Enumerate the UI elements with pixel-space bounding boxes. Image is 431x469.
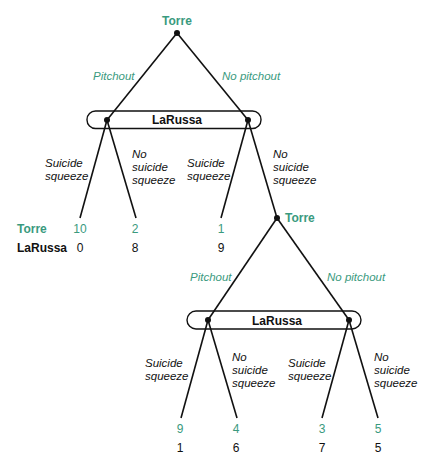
payoff-larussa-5: 6: [233, 441, 240, 455]
i1l-action-no-suicide: No suicide squeeze: [132, 148, 175, 186]
root-action-no-pitchout: No pitchout: [222, 70, 281, 82]
i2l-action-suicide: Suicide squeeze: [145, 357, 188, 382]
game-tree: Torre Pitchout No pitchout LaRussa Suici…: [0, 0, 431, 469]
payoff-torre-1: 10: [73, 222, 87, 236]
payoff-larussa-4: 1: [177, 441, 184, 455]
infoset-1-label: LaRussa: [152, 113, 202, 127]
payoff-torre-2: 2: [132, 222, 139, 236]
payoff-larussa-1: 0: [77, 241, 84, 255]
torre-node-2: [274, 215, 280, 221]
i2r-action-suicide: Suicide squeeze: [288, 357, 331, 382]
infoset-2-label: LaRussa: [252, 314, 302, 328]
edge-i2r-suicide: [322, 320, 349, 418]
edge-n2-no-pitchout: [277, 218, 349, 320]
root-action-pitchout: Pitchout: [93, 70, 135, 82]
i2l-action-no-suicide: No suicide squeeze: [232, 351, 275, 389]
node2-player-label: Torre: [285, 211, 315, 225]
edge-i1r-suicide: [221, 120, 248, 218]
i1r-action-no-suicide: No suicide squeeze: [273, 148, 316, 186]
payoff-torre-7: 5: [375, 422, 382, 436]
payoff-torre-4: 9: [177, 422, 184, 436]
payoff-row-label-larussa: LaRussa: [17, 241, 67, 255]
payoff-torre-5: 4: [233, 422, 240, 436]
i1r-action-suicide: Suicide squeeze: [187, 157, 230, 182]
payoff-larussa-3: 9: [218, 241, 225, 255]
payoff-row-label-torre: Torre: [17, 222, 47, 236]
payoff-larussa-6: 7: [319, 441, 326, 455]
edge-i2l-suicide: [181, 320, 208, 418]
edge-i1l-suicide: [80, 120, 107, 218]
i2r-action-no-suicide: No suicide squeeze: [374, 351, 417, 389]
payoff-larussa-7: 5: [375, 441, 382, 455]
n2-action-no-pitchout: No pitchout: [327, 271, 386, 283]
root-player-label: Torre: [162, 14, 192, 28]
root-node: [174, 30, 180, 36]
payoff-torre-6: 3: [319, 422, 326, 436]
i1l-action-suicide: Suicide squeeze: [45, 157, 88, 182]
payoff-larussa-2: 8: [132, 241, 139, 255]
payoff-torre-3: 1: [218, 222, 225, 236]
n2-action-pitchout: Pitchout: [190, 271, 232, 283]
